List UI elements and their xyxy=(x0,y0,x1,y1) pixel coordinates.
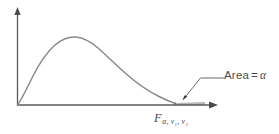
distribution-plot xyxy=(0,0,279,134)
critical-value-label: Fα, ν₁, ν₂ xyxy=(154,112,188,126)
area-leader-line xyxy=(184,78,224,99)
density-curve xyxy=(18,37,176,105)
area-annotation-alpha: α xyxy=(260,69,266,81)
area-leader-arrowhead xyxy=(182,95,187,100)
f-distribution-figure: Area=α Fα, ν₁, ν₂ xyxy=(0,0,279,134)
x-axis-arrowhead xyxy=(209,102,218,109)
area-annotation-text: Area xyxy=(224,69,249,81)
critical-value-subscript: α, ν₁, ν₂ xyxy=(162,117,189,126)
area-annotation: Area=α xyxy=(224,70,266,82)
y-axis-arrowhead xyxy=(14,7,20,15)
critical-value-symbol: F xyxy=(154,111,162,125)
area-annotation-equals: = xyxy=(249,69,260,81)
